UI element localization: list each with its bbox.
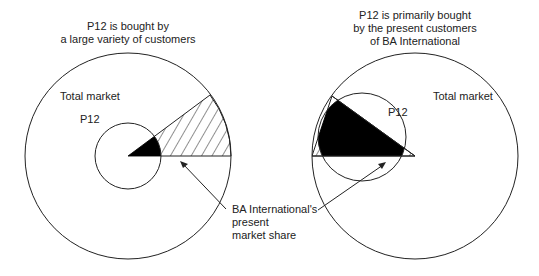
right-title: P12 is primarily bought by the present c… — [350, 9, 480, 48]
right-callout-arrow — [318, 165, 383, 210]
right-diagram — [312, 53, 518, 259]
left-title: P12 is bought by a large variety of cust… — [50, 20, 206, 46]
left-total-market-label: Total market — [60, 90, 120, 103]
left-callout-arrow — [183, 164, 226, 209]
left-diagram — [25, 53, 231, 259]
right-total-market-label: Total market — [433, 90, 493, 103]
left-p12-label: P12 — [80, 113, 100, 126]
right-p12-label: P12 — [388, 106, 408, 119]
right-overlap-region — [312, 96, 415, 156]
left-arrowhead-icon — [180, 161, 188, 168]
market-share-callout: BA International's present market share — [232, 203, 317, 242]
